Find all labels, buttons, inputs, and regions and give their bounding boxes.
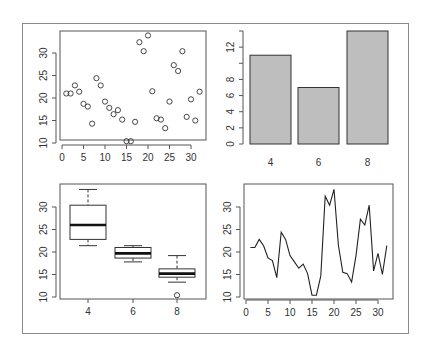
x-tick-label: 10 [284, 307, 296, 318]
y-tick-label: 12 [225, 41, 236, 53]
y-tick-label: 10 [38, 291, 49, 303]
y-tick-label: 10 [38, 137, 49, 149]
data-point [133, 119, 138, 124]
y-tick-label: 30 [38, 47, 49, 59]
x-tick-label: 15 [306, 307, 318, 318]
y-tick-label: 2 [225, 125, 236, 131]
y-tick-label: 30 [38, 201, 49, 213]
box-8 [159, 256, 195, 298]
data-point [111, 112, 116, 117]
outlier-point [174, 293, 179, 298]
data-point [77, 89, 82, 94]
data-point [85, 104, 90, 109]
data-point [107, 105, 112, 110]
data-point [167, 99, 172, 104]
y-tick-label: 15 [222, 269, 233, 281]
x-tick-label: 0 [243, 307, 249, 318]
y-tick-label: 15 [38, 115, 49, 127]
data-point [137, 40, 142, 45]
data-point [98, 83, 103, 88]
x-category-label: 6 [130, 306, 136, 317]
bar [298, 88, 339, 145]
x-tick-label: 5 [81, 152, 87, 163]
bar [250, 55, 291, 144]
data-line [250, 189, 386, 295]
x-category-label: 8 [365, 157, 371, 168]
y-tick-label: 25 [38, 224, 49, 236]
y-tick-label: 15 [38, 269, 49, 281]
y-tick-label: 20 [38, 92, 49, 104]
data-point [163, 126, 168, 131]
x-tick-label: 20 [142, 152, 154, 163]
x-tick-label: 20 [328, 307, 340, 318]
data-point [145, 33, 150, 38]
y-tick-label: 8 [225, 76, 236, 82]
x-tick-label: 5 [265, 307, 271, 318]
data-point [188, 97, 193, 102]
x-tick-label: 15 [121, 152, 133, 163]
data-point [141, 49, 146, 54]
data-point [193, 118, 198, 123]
scatter-panel: 1015202530051015202530 [38, 31, 206, 163]
four-panel-figure: 1015202530051015202530 0246812468 101520… [0, 0, 431, 351]
data-point [176, 68, 181, 73]
x-category-label: 8 [174, 306, 180, 317]
data-point [72, 83, 77, 88]
bar-panel: 0246812468 [225, 31, 388, 168]
x-tick-label: 25 [164, 152, 176, 163]
y-tick-label: 20 [38, 246, 49, 258]
data-point [180, 49, 185, 54]
bar [347, 31, 388, 144]
data-point [197, 89, 202, 94]
data-point [120, 117, 125, 122]
x-tick-label: 30 [372, 307, 384, 318]
x-category-label: 6 [316, 157, 322, 168]
x-tick-label: 10 [99, 152, 111, 163]
data-point [184, 114, 189, 119]
y-tick-label: 0 [225, 141, 236, 147]
x-tick-label: 0 [59, 152, 65, 163]
y-tick-label: 25 [222, 224, 233, 236]
y-tick-label: 6 [225, 92, 236, 98]
line-panel: 1015202530051015202530 [222, 184, 393, 318]
y-tick-label: 4 [225, 108, 236, 114]
boxplot-panel: 1015202530468 [38, 184, 206, 317]
data-point [102, 99, 107, 104]
data-point [115, 108, 120, 113]
x-tick-label: 25 [350, 307, 362, 318]
data-point [90, 121, 95, 126]
plot-box [244, 184, 393, 299]
y-tick-label: 20 [222, 246, 233, 258]
y-tick-label: 10 [222, 291, 233, 303]
data-point [150, 89, 155, 94]
iqr-box [70, 205, 106, 239]
x-category-label: 4 [268, 157, 274, 168]
y-tick-label: 25 [38, 70, 49, 82]
box-4 [70, 189, 106, 245]
data-point [171, 63, 176, 68]
data-point [94, 76, 99, 81]
y-tick-label: 30 [222, 201, 233, 213]
x-tick-label: 30 [185, 152, 197, 163]
x-category-label: 4 [85, 306, 91, 317]
box-6 [115, 246, 151, 262]
